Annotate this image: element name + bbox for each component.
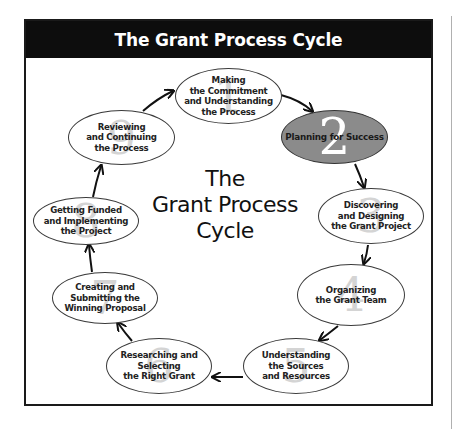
step-label: Creating and Submitting the Winning Prop… [64,282,145,314]
step-5-node[interactable]: 5 Understanding the Sources and Resource… [243,338,349,394]
arrow-4-to-5 [320,326,338,340]
center-label: The Grant Process Cycle [130,166,320,244]
arrow-1-to-2 [281,95,312,111]
arrow-9-to-1 [143,91,173,111]
arrow-3-to-4 [364,245,368,263]
step-label: Understanding the Sources and Resources [262,350,331,382]
step-label: Organizing the Grant Team [315,285,386,306]
arrow-6-to-7 [118,323,132,341]
step-8-node[interactable]: 8 Getting Funded and Implementing the Pr… [33,197,139,245]
step-9-node[interactable]: 9 Reviewing and Continuing the Process [68,110,175,165]
step-label: Reviewing and Continuing the Process [86,122,156,154]
step-label: Researching and Selecting the Right Gran… [120,350,197,382]
step-6-node[interactable]: 6 Researching and Selecting the Right Gr… [106,338,212,394]
arrow-8-to-9 [93,166,101,197]
step-label: Discovering and Designing the Grant Proj… [331,200,411,232]
step-label: Making the Commitment and Understanding … [184,75,273,117]
step-3-node[interactable]: 3 Discovering and Designing the Grant Pr… [318,188,424,244]
step-7-node[interactable]: 7 Creating and Submitting the Winning Pr… [52,272,158,324]
step-label: Planning for Success [285,132,383,143]
step-label: Getting Funded and Implementing the Proj… [44,205,128,237]
step-4-node[interactable]: 4 Organizing the Grant Team [297,264,405,326]
step-2-node-active[interactable]: 2 Planning for Success [281,110,388,164]
arrow-2-to-3 [355,164,364,187]
step-1-node[interactable]: 1 Making the Commitment and Understandin… [175,68,282,124]
arrow-7-to-8 [89,245,92,272]
